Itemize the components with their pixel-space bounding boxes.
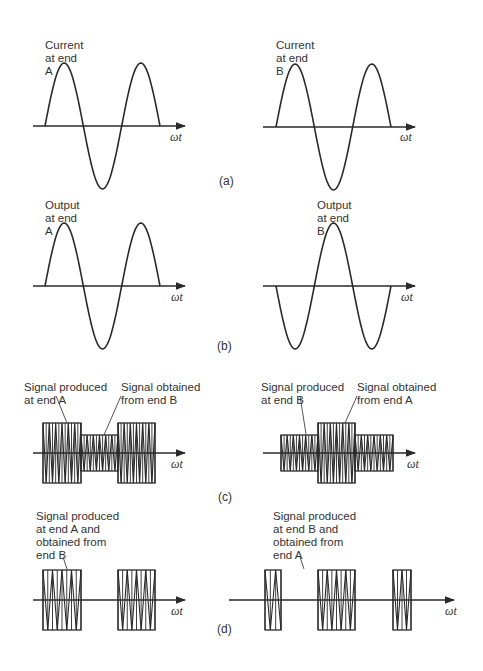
waveform-figure [0,0,483,671]
axis-label-omega-t: ωt [171,604,183,619]
panel-label-a: (a) [219,174,234,188]
axis-label-omega-t: ωt [445,604,457,619]
panel-label-d: (d) [217,622,232,636]
annotation-signal-produced-b: Signal produced at end B [261,381,344,407]
panel-label-c: (c) [218,490,232,504]
annotation-signal-a-obtained-b: Signal produced at end A and obtained fr… [36,510,119,562]
axis-label-omega-t: ωt [401,290,413,305]
annotation-leader-line [345,396,357,423]
annotation-signal-obtained-a: Signal obtained from end A [357,381,436,407]
axis-label-omega-t: ωt [171,457,183,472]
annotation-signal-b-obtained-a: Signal produced at end B and obtained fr… [273,510,356,562]
annotation-signal-produced-a: Signal produced at end A [24,381,107,407]
caption-output-end-a: Output at end A [45,199,80,238]
axis-label-omega-t: ωt [400,130,412,145]
axis-label-omega-t: ωt [171,290,183,305]
annotation-signal-obtained-b: Signal obtained from end B [121,381,200,407]
axis-label-omega-t: ωt [170,130,182,145]
axis-label-omega-t: ωt [407,457,419,472]
burst-d-right-1-carrier [265,570,281,630]
caption-current-end-b: Current at end B [276,39,314,78]
caption-current-end-a: Current at end A [45,39,83,78]
caption-output-end-b: Output at end B [317,199,352,238]
panel-label-b: (b) [217,339,232,353]
